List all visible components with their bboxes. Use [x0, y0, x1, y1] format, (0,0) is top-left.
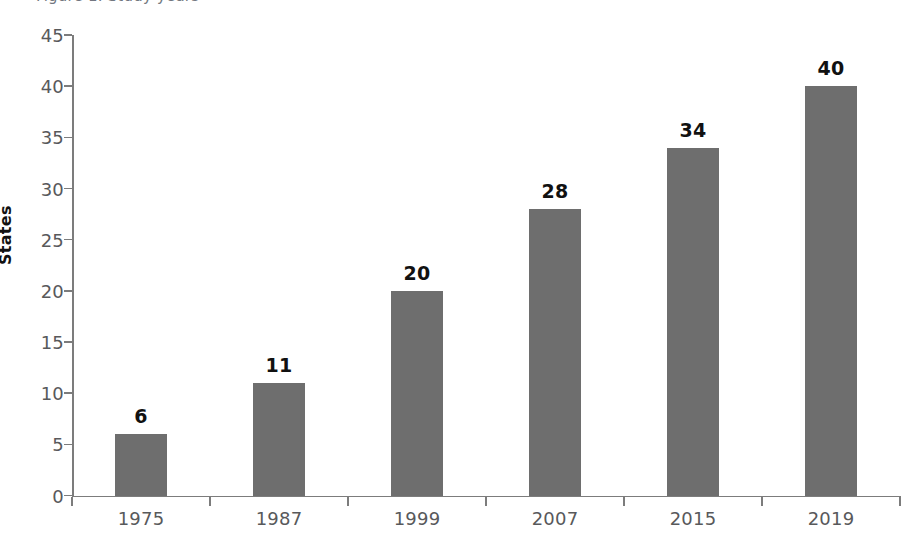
x-axis-tick-label: 1975	[118, 508, 165, 529]
bar[interactable]	[667, 148, 719, 496]
bar-value-label: 40	[805, 57, 857, 79]
x-axis-tick	[761, 497, 763, 506]
x-axis-tick-label: 2019	[808, 508, 855, 529]
bar-value-label: 6	[115, 405, 167, 427]
x-axis-tick-label: 1987	[256, 508, 303, 529]
bar-value-label: 11	[253, 354, 305, 376]
bar[interactable]	[115, 434, 167, 495]
x-axis-tick	[899, 497, 901, 506]
bar-group[interactable]: 6	[115, 0, 167, 496]
bar[interactable]	[391, 291, 443, 496]
x-axis-tick-label: 2015	[670, 508, 717, 529]
bar-group[interactable]: 11	[253, 0, 305, 496]
x-axis-tick-label: 1999	[394, 508, 441, 529]
x-axis-tick	[209, 497, 211, 506]
bar[interactable]	[805, 86, 857, 495]
bar-group[interactable]: 40	[805, 0, 857, 496]
bar-chart: Figure 1. Study years States 05101520253…	[0, 0, 922, 544]
bar-series: 61120283440	[0, 0, 922, 496]
bar[interactable]	[529, 209, 581, 496]
x-axis-tick	[347, 497, 349, 506]
bar-value-label: 34	[667, 119, 719, 141]
bar[interactable]	[253, 383, 305, 496]
bar-group[interactable]: 28	[529, 0, 581, 496]
bar-value-label: 20	[391, 262, 443, 284]
x-axis-tick-label: 2007	[532, 508, 579, 529]
x-axis-tick	[623, 497, 625, 506]
bar-group[interactable]: 20	[391, 0, 443, 496]
bar-group[interactable]: 34	[667, 0, 719, 496]
bar-value-label: 28	[529, 180, 581, 202]
x-axis-tick	[71, 497, 73, 506]
x-axis-tick	[485, 497, 487, 506]
